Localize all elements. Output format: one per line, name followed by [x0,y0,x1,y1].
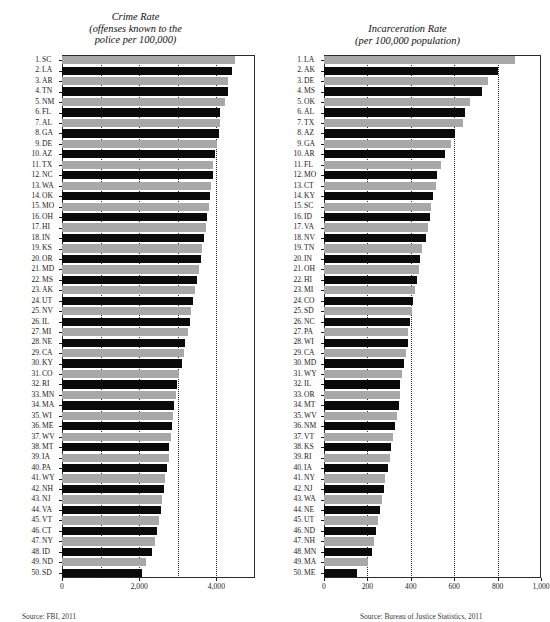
bar-row [324,568,541,578]
category-label-ma: 34.MA [0,400,56,410]
bar-row [324,515,541,525]
category-abbr: NE [304,505,318,515]
category-label-al: 7.AL [0,118,56,128]
category-label-wa: 13.WA [0,181,56,191]
category-rank: 32. [283,379,303,389]
category-tick [59,60,62,61]
category-label-ar: 3.AR [0,76,56,86]
category-label-ri: 39.RI [272,452,318,462]
category-tick [59,102,62,103]
bar-row [324,128,541,138]
category-abbr: WI [42,411,56,421]
bar-de [62,140,217,148]
bar-tn [324,244,422,252]
bar-me [62,422,172,430]
category-tick [59,301,62,302]
category-label-ma: 49.MA [272,557,318,567]
bar-row [62,65,255,75]
category-tick [321,374,324,375]
category-label-nc: 26.NC [272,317,318,327]
category-rank: 43. [21,494,41,504]
bar-row [324,369,541,379]
category-abbr: IN [42,233,56,243]
category-rank: 47. [283,536,303,546]
category-abbr: OH [42,212,56,222]
category-rank: 21. [283,264,303,274]
category-rank: 30. [21,358,41,368]
category-abbr: MA [42,400,56,410]
category-rank: 36. [283,421,303,431]
bar-wy [62,474,165,482]
category-label-ks: 19.KS [0,243,56,253]
category-rank: 37. [21,432,41,442]
category-label-sc: 1.SC [0,55,56,65]
category-tick [321,71,324,72]
category-abbr: AK [304,65,318,75]
category-label-fl: 11.FL [272,160,318,170]
category-tick [59,71,62,72]
category-tick [321,562,324,563]
bar-row [324,181,541,191]
category-rank: 2. [283,65,303,75]
category-rank: 34. [21,400,41,410]
category-rank: 1. [283,55,303,65]
bar-mo [324,171,437,179]
bar-row [62,160,255,170]
category-tick [59,259,62,260]
category-tick [59,269,62,270]
category-rank: 46. [21,526,41,536]
category-tick [59,562,62,563]
bar-row [62,181,255,191]
bar-row [62,243,255,253]
bar-wa [324,495,382,503]
bar-row [324,505,541,515]
category-tick [321,500,324,501]
category-abbr: UT [304,515,318,525]
category-tick [321,92,324,93]
category-abbr: IA [42,452,56,462]
bar-ct [324,182,436,190]
category-rank: 18. [283,233,303,243]
category-tick [321,144,324,145]
category-rank: 45. [21,515,41,525]
bar-row [324,536,541,546]
category-label-il: 26.IL [0,317,56,327]
category-tick [321,573,324,574]
category-tick [321,447,324,448]
bar-row [324,348,541,358]
category-rank: 6. [283,107,303,117]
category-label-ca: 29.CA [272,348,318,358]
bar-oh [324,265,419,273]
category-abbr: RI [42,379,56,389]
category-tick [321,81,324,82]
bar-row [62,76,255,86]
bar-row [62,348,255,358]
category-abbr: IN [304,254,318,264]
category-label-ne: 44.NE [272,505,318,515]
bar-row [62,191,255,201]
bar-row [62,118,255,128]
category-tick [59,500,62,501]
bar-row [324,86,541,96]
category-label-ga: 9.GA [272,139,318,149]
category-label-or: 20.OR [0,254,56,264]
incarceration-rate-title-line1: Incarceration Rate [272,23,543,35]
bar-wv [324,412,397,420]
category-label-nh: 42.NH [0,484,56,494]
bar-ms [62,276,197,284]
bar-row [62,296,255,306]
bar-or [62,255,201,263]
bar-ne [324,506,380,514]
category-tick [59,249,62,250]
category-rank: 3. [283,76,303,86]
bar-row [324,358,541,368]
crime-rate-footnote: Source: FBI, 2011 [22,612,76,621]
bar-ny [62,537,155,545]
bar-va [324,223,428,231]
category-tick [59,186,62,187]
category-abbr: MD [42,264,56,274]
category-abbr: NC [304,317,318,327]
bar-row [62,536,255,546]
category-tick [321,531,324,532]
category-abbr: NY [304,473,318,483]
